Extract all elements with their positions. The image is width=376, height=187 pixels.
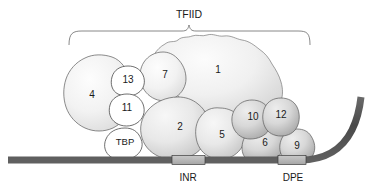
promoter-label-dpe: DPE [283,172,304,183]
subunit-label-6: 6 [262,137,268,148]
promoter-label-inr: INR [179,172,196,183]
subunit-label-2: 2 [177,121,183,132]
dpe-element [278,156,306,165]
subunit-label-13: 13 [122,74,134,85]
subunit-label-11: 11 [122,102,133,113]
subunit-label-12: 12 [275,109,287,120]
subunit-label-1: 1 [215,64,221,75]
subunit-label-9: 9 [294,140,300,151]
dpe-box [278,156,306,165]
subunit-label-7: 7 [162,69,168,80]
complex-label-tfiid: TFIID [176,8,203,20]
inr-element [172,156,205,165]
tfiid-diagram: TFIID 4 13 11 TBP 7 1 2 5 10 12 6 9 INR … [0,0,376,187]
subunit-label-10: 10 [247,111,259,122]
inr-box [172,156,205,165]
subunit-label-4: 4 [89,89,95,100]
diagram-canvas: TFIID 4 13 11 TBP 7 1 2 5 10 12 6 9 INR … [0,0,376,187]
subunit-label-tbp: TBP [116,136,134,147]
subunit-label-5: 5 [219,129,225,140]
